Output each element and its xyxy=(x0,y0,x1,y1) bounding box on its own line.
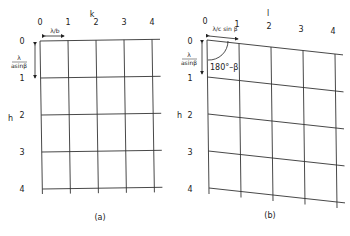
vertical-spacing-den-b: asinβ xyxy=(181,59,197,67)
grid-column-line xyxy=(239,44,241,198)
row-label: 4 xyxy=(187,185,192,194)
vertical-spacing-num-a: λ xyxy=(17,54,21,61)
row-label: 2 xyxy=(187,111,192,120)
column-label: 4 xyxy=(149,18,154,27)
column-label: 0 xyxy=(37,18,42,27)
grid-row-line xyxy=(209,188,345,203)
column-label: 1 xyxy=(65,18,70,27)
row-label: 3 xyxy=(187,148,192,157)
row-label: 4 xyxy=(19,185,24,194)
grid-row-line xyxy=(208,114,344,129)
vertical-spacing-den-a: asinβ xyxy=(11,62,27,70)
row-label: 2 xyxy=(19,111,24,120)
grid-column-line xyxy=(152,39,154,192)
row-axis-label-a: h xyxy=(8,114,13,123)
row-label: 3 xyxy=(19,148,24,157)
row-label: 1 xyxy=(187,74,192,83)
grid-row-line xyxy=(208,77,344,92)
column-label: 3 xyxy=(121,18,126,27)
grid-row-line xyxy=(40,39,160,41)
grid-row-line xyxy=(42,150,162,152)
grid-column-line xyxy=(40,41,42,194)
column-label: 2 xyxy=(93,18,98,27)
grid-row-line xyxy=(207,40,343,55)
column-label: 2 xyxy=(266,22,271,31)
panel-b: l 01234 01234 h λ/c sin β λ asinβ 180°–β… xyxy=(177,9,345,220)
row-label: 0 xyxy=(187,37,192,46)
panel-a: k 01234 01234 h λ/b λ asinβ (a) xyxy=(8,10,162,222)
horizontal-spacing-label-b: λ/c sin β xyxy=(212,25,237,33)
column-labels-a: 01234 xyxy=(37,18,154,27)
angle-arc xyxy=(208,41,228,60)
row-label: 0 xyxy=(19,37,24,46)
caption-b: (b) xyxy=(264,211,275,220)
grid-row-line xyxy=(41,113,161,115)
grid-column-line xyxy=(124,40,126,193)
caption-a: (a) xyxy=(94,213,105,222)
reciprocal-lattice-diagram: k 01234 01234 h λ/b λ asinβ (a) l 01234 … xyxy=(0,0,350,236)
column-label: 0 xyxy=(202,17,207,26)
horizontal-spacing-arrow-b xyxy=(209,36,238,39)
grid-column-line xyxy=(271,47,273,201)
grid-row-line xyxy=(209,151,345,166)
column-label: 4 xyxy=(330,27,335,36)
row-axis-label-b: h xyxy=(177,111,182,120)
grid-a xyxy=(40,39,162,194)
grid-row-line xyxy=(42,187,162,189)
grid-column-line xyxy=(96,40,98,193)
horizontal-spacing-label-a: λ/b xyxy=(50,27,60,34)
grid-column-line xyxy=(207,40,209,194)
grid-column-line xyxy=(335,54,337,208)
grid-column-line xyxy=(303,51,305,205)
grid-column-line xyxy=(68,41,70,194)
grid-row-line xyxy=(41,76,161,78)
vertical-spacing-num-b: λ xyxy=(187,51,191,58)
row-label: 1 xyxy=(19,74,24,83)
column-axis-label-b: l xyxy=(267,9,269,18)
column-label: 3 xyxy=(298,25,303,34)
angle-label: 180°–β xyxy=(210,63,238,72)
